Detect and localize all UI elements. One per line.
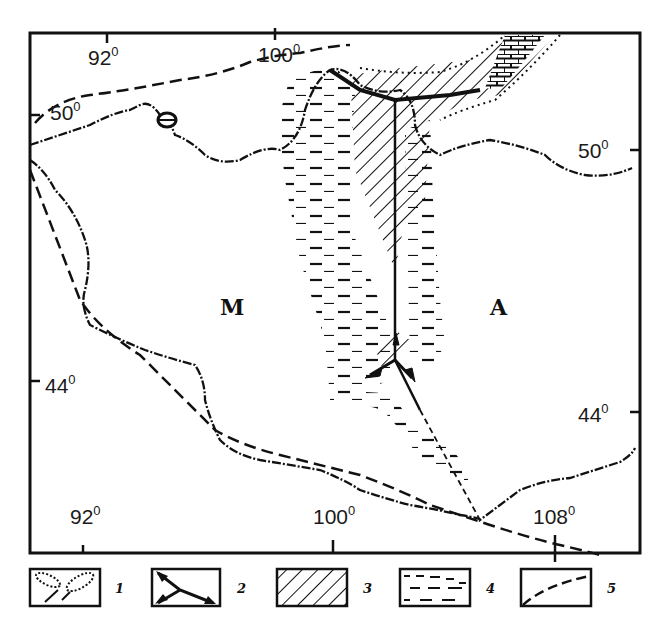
legend: 1 2 3 4 5 bbox=[30, 569, 616, 606]
legend-number-3: 3 bbox=[363, 581, 372, 596]
map-figure: 920 1000 500 440 500 440 920 1000 1080 M… bbox=[0, 0, 665, 633]
legend-item-4: 4 bbox=[400, 569, 495, 606]
region-label-a: A bbox=[489, 294, 508, 320]
legend-number-5: 5 bbox=[607, 581, 616, 596]
legend-item-1: 1 bbox=[30, 569, 124, 606]
legend-number-1: 1 bbox=[115, 581, 124, 596]
legend-number-4: 4 bbox=[486, 581, 495, 596]
legend-number-2: 2 bbox=[236, 581, 246, 596]
region-label-m: M bbox=[220, 294, 244, 320]
lens-symbol bbox=[158, 113, 176, 127]
legend-item-2: 2 bbox=[152, 569, 246, 606]
legend-item-3: 3 bbox=[277, 569, 372, 606]
legend-item-5: 5 bbox=[521, 569, 616, 606]
